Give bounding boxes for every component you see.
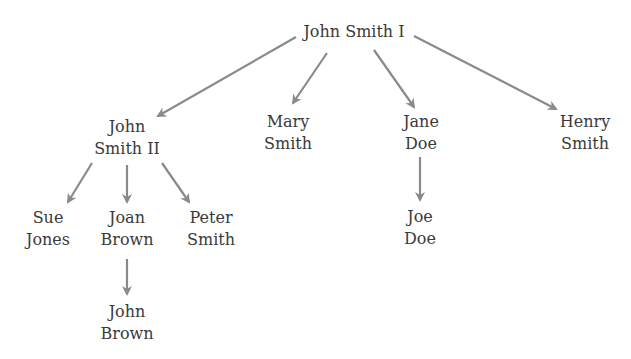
node-label-line: John: [100, 301, 153, 323]
node-john-smith-i: John Smith I: [303, 21, 404, 43]
node-jane-doe: Jane Doe: [403, 111, 439, 155]
node-label-line: Brown: [100, 323, 153, 345]
node-label-line: John Smith I: [303, 21, 404, 43]
node-label-line: Peter: [187, 207, 235, 229]
family-tree-diagram: John Smith I John Smith II Mary Smith Ja…: [0, 0, 631, 359]
node-sue-jones: Sue Jones: [26, 207, 70, 251]
node-label-line: Joe: [404, 206, 436, 228]
node-label-line: Jones: [26, 229, 70, 251]
node-joe-doe: Joe Doe: [404, 206, 436, 250]
edge-john-smith-ii-to-sue-jones: [68, 163, 92, 202]
node-label-line: Smith: [187, 229, 235, 251]
node-label-line: John: [94, 116, 160, 138]
node-peter-smith: Peter Smith: [187, 207, 235, 251]
node-label-line: Sue: [26, 207, 70, 229]
node-label-line: Brown: [100, 229, 153, 251]
edge-root-to-mary-smith: [293, 53, 327, 103]
node-mary-smith: Mary Smith: [264, 111, 312, 155]
node-henry-smith: Henry Smith: [560, 111, 610, 155]
node-label-line: Smith: [264, 133, 312, 155]
edge-john-smith-ii-to-peter-smith: [162, 163, 189, 202]
edges-layer: [0, 0, 631, 359]
node-john-brown: John Brown: [100, 301, 153, 345]
edge-root-to-jane-doe: [374, 50, 414, 107]
node-label-line: Doe: [404, 228, 436, 250]
node-label-line: Doe: [403, 133, 439, 155]
node-label-line: Smith: [560, 133, 610, 155]
node-label-line: Jane: [403, 111, 439, 133]
node-label-line: Joan: [100, 207, 153, 229]
node-label-line: Smith II: [94, 138, 160, 160]
edge-root-to-john-smith-ii: [158, 37, 296, 116]
node-label-line: Mary: [264, 111, 312, 133]
node-label-line: Henry: [560, 111, 610, 133]
node-joan-brown: Joan Brown: [100, 207, 153, 251]
edge-root-to-henry-smith: [414, 36, 556, 109]
node-john-smith-ii: John Smith II: [94, 116, 160, 160]
